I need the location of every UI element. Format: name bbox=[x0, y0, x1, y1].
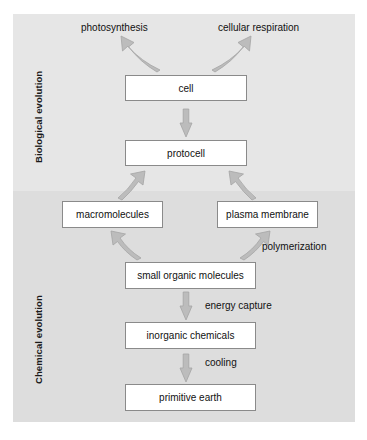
node-cell-label: cell bbox=[178, 83, 193, 94]
node-small-organic-molecules[interactable]: small organic molecules bbox=[125, 262, 256, 289]
node-inorganic-chemicals[interactable]: inorganic chemicals bbox=[125, 322, 256, 349]
node-primitive-earth-label: primitive earth bbox=[159, 392, 222, 403]
node-primitive-earth[interactable]: primitive earth bbox=[125, 384, 256, 411]
diagram-canvas: Biological evolution Chemical evolution bbox=[0, 0, 367, 440]
output-label-cellular-respiration: cellular respiration bbox=[218, 22, 299, 33]
output-label-photosynthesis: photosynthesis bbox=[81, 22, 148, 33]
node-macromolecules[interactable]: macromolecules bbox=[62, 201, 163, 228]
edge-label-cooling: cooling bbox=[205, 357, 237, 368]
band-label-chemical-evolution: Chemical evolution bbox=[33, 295, 44, 384]
node-cell[interactable]: cell bbox=[125, 75, 247, 101]
node-plasma-membrane[interactable]: plasma membrane bbox=[217, 201, 318, 228]
node-small-organic-molecules-label: small organic molecules bbox=[137, 270, 244, 281]
node-inorganic-chemicals-label: inorganic chemicals bbox=[147, 330, 235, 341]
node-plasma-membrane-label: plasma membrane bbox=[226, 209, 309, 220]
node-macromolecules-label: macromolecules bbox=[76, 209, 149, 220]
edge-label-energy-capture: energy capture bbox=[205, 300, 272, 311]
node-protocell-label: protocell bbox=[167, 148, 205, 159]
band-label-biological-evolution: Biological evolution bbox=[33, 71, 44, 163]
node-protocell[interactable]: protocell bbox=[125, 140, 247, 166]
edge-label-polymerization: polymerization bbox=[262, 241, 326, 252]
